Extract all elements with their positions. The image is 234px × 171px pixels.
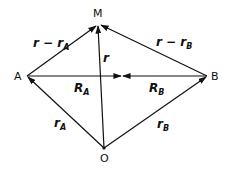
label-RA: RA [74,81,89,97]
vector-rA [28,77,104,148]
point-label-A: A [14,70,22,83]
label-r: r [103,51,110,65]
label-rA: rA [54,116,66,132]
label-rB: rB [157,117,169,133]
vector-r-minus-rA [27,26,96,76]
point-label-O: O [100,152,109,165]
vector-r [98,26,104,148]
origin-dot [102,146,105,149]
point-label-M: M [93,7,103,20]
label-r-minus-rB: r − rB [156,35,192,51]
vector-diagram: M A B O r − rA r − rB r RA RB rA rB [0,0,234,171]
label-RB: RB [149,81,164,97]
point-label-B: B [211,70,219,83]
label-r-minus-rA: r − rA [33,36,69,52]
